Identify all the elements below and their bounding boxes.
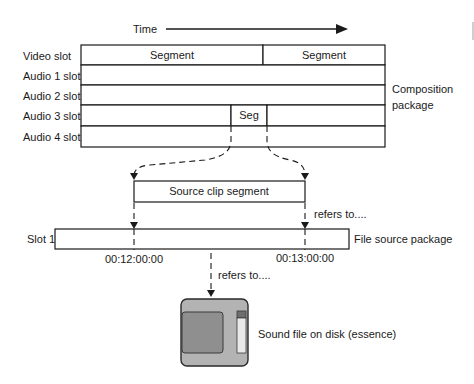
audio4-track	[81, 126, 385, 147]
slot-label-audio1: Audio 1 slot	[23, 70, 80, 82]
time-label: Time	[133, 23, 157, 35]
end-timecode: 00:13:00:00	[276, 252, 334, 264]
slot-label-video: Video slot	[23, 50, 71, 62]
source-clip-segment: Source clip segment	[134, 181, 305, 202]
video-segment-2-label: Segment	[302, 49, 346, 61]
essence-label: Sound file on disk (essence)	[258, 328, 396, 340]
time-axis: Time	[133, 23, 348, 35]
slot1-label: Slot 1	[27, 233, 55, 245]
composition-package-label-1: Composition	[392, 83, 453, 95]
refers-to-label-1: refers to....	[314, 208, 367, 220]
source-clip-label: Source clip segment	[169, 185, 269, 197]
time-arrowhead-icon	[336, 24, 348, 34]
end-arrowhead-icon	[301, 222, 309, 229]
essence-arrowhead-icon	[207, 290, 215, 297]
slot-label-audio3: Audio 3 slot	[23, 110, 80, 122]
audio3-seg-label: Seg	[239, 109, 259, 121]
audio1-track	[81, 65, 385, 85]
file-to-essence-connector: refers to....	[207, 253, 271, 297]
source-to-file-connectors: refers to....	[130, 203, 367, 229]
start-timecode: 00:12:00:00	[105, 253, 163, 265]
slot-label-audio2: Audio 2 slot	[23, 90, 80, 102]
left-connector-arrowhead-icon	[130, 173, 138, 180]
audio3-track-right	[267, 105, 385, 126]
composition-diagram: Time Video slot Audio 1 slot Audio 2 slo…	[0, 0, 474, 384]
refers-to-label-2: refers to....	[218, 269, 271, 281]
composition-package-label-2: package	[392, 99, 434, 111]
slot-label-audio4: Audio 4 slot	[23, 131, 80, 143]
disk-icon	[181, 299, 248, 366]
right-connector-arrowhead-icon	[301, 173, 309, 180]
composition-package: Video slot Audio 1 slot Audio 2 slot Aud…	[23, 45, 453, 147]
video-segment-1-label: Segment	[150, 49, 194, 61]
audio2-track	[81, 85, 385, 105]
start-arrowhead-icon	[130, 222, 138, 229]
file-source-package: Slot 1 File source package 00:12:00:00 0…	[27, 229, 452, 265]
audio3-track-left	[81, 105, 231, 126]
file-source-package-label: File source package	[354, 233, 452, 245]
